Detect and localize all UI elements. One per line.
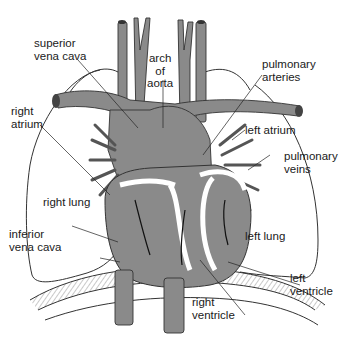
label-left-atrium: left atrium <box>245 124 296 137</box>
label-right-atrium: right atrium <box>11 105 43 130</box>
heart-diagram: superior vena cava arch of aorta pulmona… <box>0 0 347 337</box>
label-pulmonary-arteries: pulmonary arteries <box>262 58 316 83</box>
label-arch-of-aorta: arch of aorta <box>147 52 173 90</box>
label-right-ventricle: right ventricle <box>192 296 235 321</box>
label-superior-vena-cava: superior vena cava <box>34 37 86 62</box>
label-left-lung: left lung <box>245 230 285 243</box>
label-inferior-vena-cava: inferior vena cava <box>9 228 61 253</box>
label-left-ventricle: left ventricle <box>290 272 333 297</box>
label-pulmonary-veins: pulmonary veins <box>284 150 338 175</box>
label-right-lung: right lung <box>43 196 90 209</box>
